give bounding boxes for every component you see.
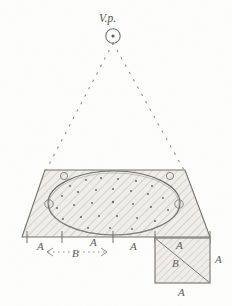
label-b-baseline: B xyxy=(72,247,79,259)
label-a-1: A xyxy=(37,240,44,252)
convergence-line-left xyxy=(45,43,113,172)
label-b-diagonal: B xyxy=(172,257,179,269)
vanishing-point-label: V.p. xyxy=(99,12,116,24)
perspective-diagram xyxy=(0,0,232,306)
label-a-3: A xyxy=(130,240,137,252)
label-a-4: A xyxy=(176,239,183,251)
drawing-canvas: V.p. A A A A B A B A xyxy=(0,0,232,306)
convergence-line-right xyxy=(113,43,185,172)
label-a-square-right: A xyxy=(215,253,222,265)
convergence-lines xyxy=(45,43,185,172)
trapezoid-hatch xyxy=(22,170,210,237)
label-a-square-bottom: A xyxy=(178,286,185,298)
label-a-2: A xyxy=(90,236,97,248)
